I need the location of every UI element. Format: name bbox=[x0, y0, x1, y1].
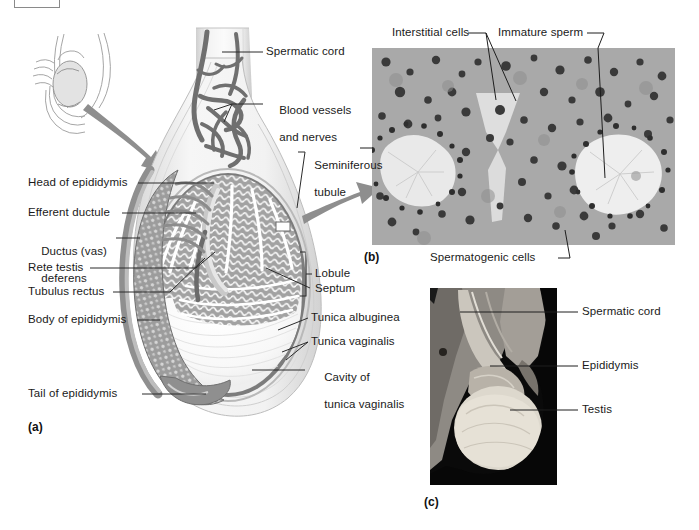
label-lobule: Lobule bbox=[315, 267, 350, 281]
panel-c-leader-lines bbox=[460, 312, 578, 410]
panel-b-micrograph-image bbox=[369, 48, 675, 245]
micrograph-region-box bbox=[276, 222, 290, 231]
label-line-1: Ductus (vas) bbox=[41, 245, 107, 257]
crop-mark-box bbox=[14, 0, 60, 8]
label-interstitial-cells: Interstitial cells bbox=[392, 26, 469, 40]
inset-pointer-arrow bbox=[83, 104, 163, 172]
label-tunica-albuginea: Tunica albuginea bbox=[311, 311, 400, 325]
label-spermatic-cord-c: Spermatic cord bbox=[582, 305, 661, 319]
label-spermatic-cord-a: Spermatic cord bbox=[266, 45, 345, 59]
label-line-1: Blood vessels bbox=[279, 104, 351, 116]
anatomy-figure: Spermatic cord Blood vessels and nerves … bbox=[0, 0, 699, 530]
label-efferent-ductule: Efferent ductule bbox=[28, 206, 110, 220]
label-spermatogenic-cells: Spermatogenic cells bbox=[430, 251, 535, 265]
label-line-2: tubule bbox=[314, 186, 346, 198]
panel-c-photograph-image bbox=[430, 288, 557, 485]
label-epididymis: Epididymis bbox=[582, 359, 639, 373]
body-inset-diagram bbox=[33, 33, 110, 133]
blood-vessels-and-nerves-artwork bbox=[194, 32, 249, 166]
label-head-of-epididymis: Head of epididymis bbox=[28, 176, 128, 190]
label-tail-of-epididymis: Tail of epididymis bbox=[28, 387, 117, 401]
epididymis-artwork bbox=[124, 170, 231, 405]
label-line-1: Cavity of bbox=[324, 371, 370, 383]
label-line-1: Seminiferous bbox=[314, 159, 382, 171]
label-tunica-vaginalis: Tunica vaginalis bbox=[311, 335, 395, 349]
panel-tag-b: (b) bbox=[364, 250, 379, 264]
label-immature-sperm: Immature sperm bbox=[498, 26, 583, 40]
panel-tag-a: (a) bbox=[28, 420, 43, 434]
label-line-2: and nerves bbox=[279, 131, 337, 143]
panel-b-leader-lines bbox=[360, 33, 605, 258]
label-seminiferous-tubule: Seminiferous tubule bbox=[301, 145, 383, 213]
seminiferous-lobules bbox=[150, 174, 302, 326]
testis-body-artwork bbox=[146, 169, 310, 401]
panel-tag-c: (c) bbox=[424, 495, 439, 509]
label-tubulus-rectus: Tubulus rectus bbox=[28, 285, 104, 299]
spermatic-cord-artwork bbox=[196, 28, 252, 112]
label-testis: Testis bbox=[582, 403, 612, 417]
label-rete-testis: Rete testis bbox=[28, 261, 83, 275]
label-line-2: tunica vaginalis bbox=[324, 398, 404, 410]
lobule-bracket bbox=[300, 252, 306, 296]
label-septum: Septum bbox=[315, 282, 355, 296]
label-body-of-epididymis: Body of epididymis bbox=[28, 313, 126, 327]
label-cavity-of-tunica-vaginalis: Cavity of tunica vaginalis bbox=[311, 357, 404, 425]
